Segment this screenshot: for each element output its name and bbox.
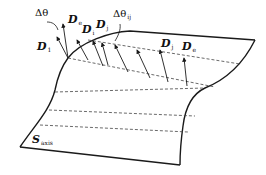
surface-main: S xyxy=(32,133,40,146)
de-right-main: D xyxy=(182,40,192,53)
surface-label: Saxis xyxy=(32,134,53,146)
di-main: D xyxy=(82,23,92,36)
delta-theta-label: Δθ xyxy=(35,8,48,18)
delta-theta-ij-text: Δθ xyxy=(113,8,126,19)
dj-right-sub: j xyxy=(172,43,174,50)
vector-label-dj: Dj xyxy=(96,19,108,31)
vector-label-d1: D1 xyxy=(37,41,51,53)
de-right-sub: e xyxy=(193,46,197,53)
de-main: D xyxy=(68,13,78,26)
d1-main: D xyxy=(37,40,47,53)
vector-label-de: De xyxy=(68,14,82,26)
di-sub: i xyxy=(93,29,95,36)
delta-theta-text: Δθ xyxy=(35,7,48,18)
vector-label-de-right: De xyxy=(182,41,196,53)
surface-sub: axis xyxy=(41,139,53,146)
surface-diagram xyxy=(0,0,266,175)
dj-main: D xyxy=(96,18,106,31)
d1-sub: 1 xyxy=(48,46,52,53)
dj-sub: j xyxy=(107,24,109,31)
delta-theta-ij-sub: ij xyxy=(127,13,131,20)
dj-right-main: D xyxy=(161,37,171,50)
vector-label-di: Di xyxy=(82,24,94,36)
vector-label-dj-right: Dj xyxy=(161,38,173,50)
delta-theta-ij-label: Δθij xyxy=(113,9,131,20)
